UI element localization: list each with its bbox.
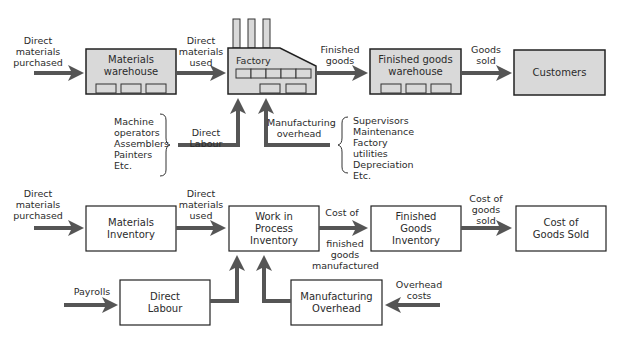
customers-label: Customers [514, 50, 605, 95]
factory-label: Factory [236, 55, 296, 66]
cost-of-goods-sold-label: Cost of Goods Sold [516, 206, 606, 251]
label-finished-goods-manufactured: finished goods manufactured [312, 238, 378, 271]
materials-inventory-label: Materials Inventory [86, 206, 176, 251]
label-direct-materials-purchased: Direct materials purchased [2, 35, 74, 68]
manufacturing-overhead-label: Manufacturing Overhead [291, 280, 382, 325]
label-manufacturing-overhead: Manufacturing overhead [267, 117, 331, 139]
overhead-items-list: Supervisors Maintenance Factory utilitie… [353, 115, 428, 181]
label-goods-sold: Goods sold [466, 44, 506, 66]
label-overhead-costs: Overhead costs [394, 279, 444, 301]
label-direct-materials-used: Direct materials used [176, 35, 226, 68]
finished-goods-warehouse-label: Finished goods warehouse [370, 52, 461, 80]
label-cost-of-goods-sold: Cost of goods sold [464, 193, 508, 226]
label-finished-goods: Finished goods [312, 44, 368, 66]
direct-labour-label: Direct Labour [120, 280, 210, 325]
finished-goods-inventory-label: Finished Goods Inventory [371, 206, 461, 251]
arrow-labour-to-wip [210, 259, 237, 301]
arrow-overhead-to-wip [264, 259, 291, 301]
overhead-brace [338, 117, 348, 173]
label-cost-of: Cost of [320, 207, 364, 218]
label-direct-labour: Direct Labour [175, 127, 237, 149]
label-bottom-direct-materials-used: Direct materials used [176, 188, 226, 221]
labour-items-list: Machine operators Assemblers Painters Et… [114, 116, 174, 171]
label-bottom-direct-materials-purchased: Direct materials purchased [2, 188, 74, 221]
label-payrolls: Payrolls [70, 286, 114, 297]
materials-warehouse-label: Materials warehouse [86, 52, 176, 80]
wip-inventory-label: Work in Process Inventory [229, 206, 319, 251]
